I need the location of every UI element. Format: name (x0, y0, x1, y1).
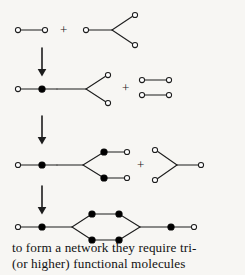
filled-dot (39, 162, 45, 168)
row2-branched-adduct (15, 72, 110, 105)
filled-dot (168, 224, 174, 230)
open-circle (132, 12, 137, 17)
open-circle (166, 92, 171, 97)
plus-sign-row-1: + (60, 23, 67, 36)
open-circle (42, 27, 47, 32)
figure-caption: to form a network they require tri- (or … (12, 240, 240, 271)
open-circle (105, 100, 110, 105)
row2-bifunctional-molecule-top (139, 77, 171, 82)
open-circle (139, 77, 144, 82)
open-circle (15, 224, 20, 229)
caption-line-1: to form a network they require tri- (12, 240, 240, 256)
filled-dot (116, 211, 122, 217)
plus-sign-row-2: + (122, 81, 129, 94)
row2-bifunctional-molecule-bottom (139, 92, 171, 97)
open-circle (198, 162, 203, 167)
filled-dot (39, 86, 45, 92)
filled-dot (39, 224, 45, 230)
row3-trifunctional-molecule-mirrored (152, 147, 203, 182)
reaction-scheme-diagram (0, 0, 245, 275)
row-3-group (15, 147, 203, 182)
open-circle (124, 175, 129, 180)
open-circle (132, 42, 137, 47)
row3-extended-branched-oligomer (15, 149, 129, 181)
plus-sign-row-3: + (137, 158, 144, 171)
row-4-group (15, 211, 196, 243)
open-circle (15, 86, 20, 91)
open-circle (191, 224, 196, 229)
open-circle (83, 27, 88, 32)
filled-dot (101, 149, 107, 155)
filled-dot (89, 211, 95, 217)
row1-bifunctional-molecule (15, 27, 47, 32)
open-circle (124, 149, 129, 154)
row4-network-ring (15, 211, 196, 243)
open-circle (139, 92, 144, 97)
open-circle (105, 72, 110, 77)
filled-dot (101, 175, 107, 181)
open-circle (152, 147, 157, 152)
open-circle (15, 162, 20, 167)
caption-line-2: (or higher) functional molecules (12, 256, 240, 272)
row-2-group (15, 72, 171, 105)
open-circle (15, 27, 20, 32)
open-circle (152, 177, 157, 182)
polymer-network-figure: + + + to form a network they require tri… (0, 0, 245, 275)
open-circle (166, 77, 171, 82)
row-1-group (15, 12, 137, 47)
row1-trifunctional-molecule (83, 12, 137, 47)
